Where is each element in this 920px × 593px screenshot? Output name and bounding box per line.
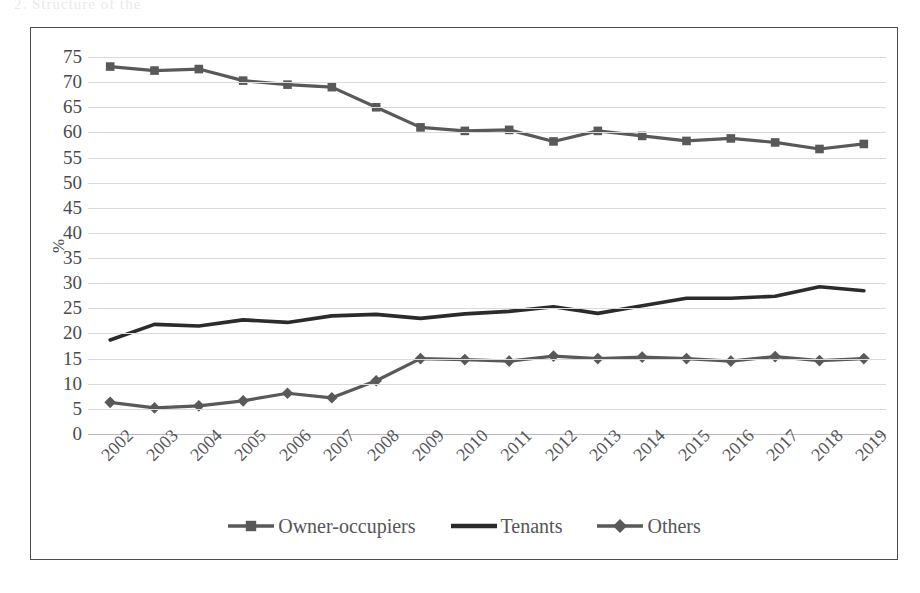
legend-item[interactable]: Tenants	[450, 516, 563, 536]
series-marker	[104, 397, 116, 409]
series-marker	[195, 65, 204, 74]
y-axis-tick: 50	[40, 173, 82, 192]
series-marker	[106, 62, 115, 71]
chart-legend: Owner-occupiersTenantsOthers	[30, 516, 898, 536]
legend-swatch-diamond-icon	[596, 518, 644, 534]
legend-swatch-square-icon	[227, 518, 275, 534]
series-line	[110, 356, 864, 408]
legend-item[interactable]: Others	[596, 516, 700, 536]
series-marker	[416, 123, 425, 132]
legend-item[interactable]: Owner-occupiers	[227, 516, 415, 536]
series-marker	[682, 137, 691, 146]
y-axis-tick: 30	[40, 273, 82, 292]
series-marker	[282, 387, 294, 399]
series-marker	[860, 140, 869, 149]
y-axis-tick: 5	[40, 399, 82, 418]
y-axis-tick-labels: 757065605550454035302520151050	[36, 0, 82, 593]
legend-label: Owner-occupiers	[278, 516, 415, 536]
y-axis-tick: 20	[40, 323, 82, 342]
y-axis-title: %	[49, 239, 69, 253]
series-marker	[503, 355, 515, 367]
series-marker	[459, 354, 471, 366]
y-axis-tick: 70	[40, 72, 82, 91]
x-axis-tick-labels: 2002200320042005200620072008200920102011…	[88, 438, 886, 508]
gridline	[88, 132, 886, 133]
series-lines	[88, 57, 886, 434]
gridline	[88, 233, 886, 234]
y-axis-tick: 15	[40, 349, 82, 368]
y-axis-tick: 10	[40, 374, 82, 393]
gridline	[88, 258, 886, 259]
series-marker	[814, 355, 826, 367]
y-axis-tick: 45	[40, 198, 82, 217]
gridline	[88, 359, 886, 360]
y-axis-tick: 65	[40, 97, 82, 116]
gridline	[88, 107, 886, 108]
gridline	[88, 308, 886, 309]
gridline	[88, 283, 886, 284]
series-marker	[769, 351, 781, 363]
gridline	[88, 208, 886, 209]
series-marker	[548, 350, 560, 362]
series-marker	[239, 76, 248, 85]
gridline	[88, 82, 886, 83]
gridline	[88, 333, 886, 334]
y-axis-tick: 0	[40, 424, 82, 443]
plot-area	[88, 57, 886, 434]
series-marker	[326, 392, 338, 404]
series-marker	[771, 138, 780, 147]
series-marker	[370, 375, 382, 387]
series-marker	[549, 137, 558, 146]
series-marker	[727, 134, 736, 143]
legend-swatch-none-icon	[450, 518, 498, 534]
series-marker	[328, 83, 337, 92]
series-marker	[815, 145, 824, 154]
gridline	[88, 183, 886, 184]
y-axis-tick: 55	[40, 148, 82, 167]
series-marker	[636, 351, 648, 363]
gridline	[88, 409, 886, 410]
series-marker	[150, 66, 159, 75]
gridline	[88, 158, 886, 159]
series-marker	[461, 127, 470, 136]
series-marker	[193, 400, 205, 412]
series-line	[110, 287, 864, 340]
y-axis-tick: 25	[40, 298, 82, 317]
gridline	[88, 57, 886, 58]
gridline	[88, 384, 886, 385]
y-axis-tick: 60	[40, 122, 82, 141]
legend-label: Tenants	[501, 516, 563, 536]
y-axis-tick: 75	[40, 47, 82, 66]
series-marker	[725, 355, 737, 367]
series-marker	[149, 402, 161, 414]
series-marker	[237, 395, 249, 407]
series-marker	[594, 127, 603, 136]
legend-label: Others	[647, 516, 700, 536]
